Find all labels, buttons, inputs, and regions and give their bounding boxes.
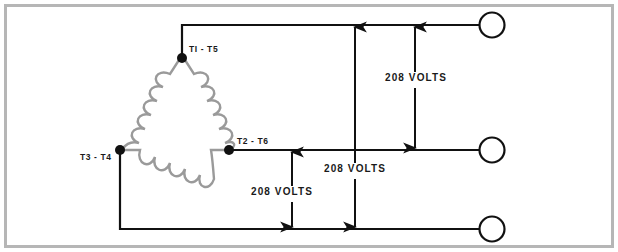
terminal-bottom-circle[interactable] [480,217,505,242]
node-label-t2-t6: T2 - T6 [237,136,269,146]
delta-winding-group [121,60,234,187]
wiring-group [115,25,480,229]
diagram-root: TI - T5 T2 - T6 T3 - T4 208 VOLTS 208 VO… [0,0,618,252]
voltage-label-bottom-left: 208 VOLTS [249,186,315,197]
terminals-group [480,13,505,242]
node-dot-t2t6 [224,145,234,155]
terminal-top-circle[interactable] [480,13,505,38]
coil-left [122,60,179,150]
voltage-label-middle: 208 VOLTS [322,163,388,174]
voltage-label-top-right: 208 VOLTS [383,72,449,83]
coil-right [185,60,234,150]
node-label-t1-t5: TI - T5 [189,44,218,54]
node-dot-t3t4 [115,145,125,155]
wire-t1t5-to-top-terminal [182,25,480,58]
coil-bottom [121,150,228,187]
dimension-arrows-group [292,27,415,227]
terminal-middle-circle[interactable] [480,138,505,163]
wiring-diagram-canvas [0,0,618,252]
node-label-t3-t4: T3 - T4 [80,152,112,162]
node-dot-t1t5 [177,53,187,63]
